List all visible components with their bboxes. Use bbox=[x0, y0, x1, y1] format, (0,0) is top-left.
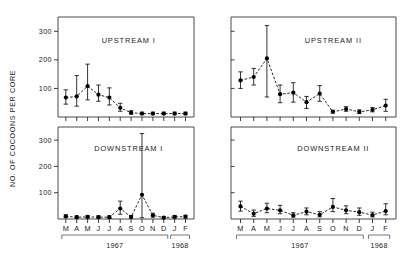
data-point bbox=[151, 111, 155, 115]
data-point bbox=[384, 209, 388, 213]
y-axis-title-wrap: NO. OF COCOONS PER CORE bbox=[2, 0, 24, 256]
year-label: 1967 bbox=[291, 241, 308, 250]
figure-root: NO. OF COCOONS PER CORE 100200300UPSTREA… bbox=[0, 0, 403, 256]
data-point bbox=[344, 208, 348, 212]
x-month-label: O bbox=[139, 224, 145, 233]
year-label: 1968 bbox=[371, 241, 388, 250]
data-point bbox=[64, 95, 68, 99]
data-point bbox=[107, 95, 111, 99]
y-axis-title: NO. OF COCOONS PER CORE bbox=[9, 69, 18, 186]
data-point bbox=[331, 110, 335, 114]
x-month-label: N bbox=[150, 224, 156, 233]
data-point bbox=[75, 94, 79, 98]
data-point bbox=[183, 111, 187, 115]
x-month-label: F bbox=[183, 224, 188, 233]
y-tick-label: 200 bbox=[39, 55, 52, 64]
data-point bbox=[291, 91, 295, 95]
x-month-label: M bbox=[84, 224, 90, 233]
panel-upstream-i: 100200300UPSTREAM I bbox=[39, 17, 194, 121]
x-month-label: J bbox=[291, 224, 295, 233]
series-line bbox=[66, 195, 186, 218]
panel-frame bbox=[231, 127, 396, 219]
data-point bbox=[162, 216, 166, 220]
data-point bbox=[278, 208, 282, 212]
series-line bbox=[241, 206, 386, 215]
panel-frame bbox=[231, 17, 396, 117]
data-point bbox=[162, 111, 166, 115]
series-line bbox=[241, 58, 386, 111]
panel-title: UPSTREAM I bbox=[102, 36, 156, 45]
data-point bbox=[118, 106, 122, 110]
data-point bbox=[252, 212, 256, 216]
data-point bbox=[370, 108, 374, 112]
panel-group: 100200300UPSTREAM IUPSTREAM II100200300D… bbox=[39, 17, 396, 233]
data-point bbox=[129, 215, 133, 219]
x-month-label: F bbox=[383, 224, 388, 233]
data-point bbox=[107, 215, 111, 219]
year-label: 1968 bbox=[171, 241, 188, 250]
panel-downstream-ii: DOWNSTREAM IIMAMJJASONDJF bbox=[231, 127, 396, 233]
cocoon-abundance-chart: 100200300UPSTREAM IUPSTREAM II100200300D… bbox=[0, 0, 403, 256]
y-tick-label: 100 bbox=[39, 188, 52, 197]
data-point bbox=[183, 215, 187, 219]
data-point bbox=[318, 213, 322, 217]
y-tick-label: 200 bbox=[39, 162, 52, 171]
data-point bbox=[304, 100, 308, 104]
x-month-label: O bbox=[330, 224, 336, 233]
data-point bbox=[318, 91, 322, 95]
x-month-label: J bbox=[278, 224, 282, 233]
data-point bbox=[64, 214, 68, 218]
x-month-label: A bbox=[251, 224, 256, 233]
data-point bbox=[118, 206, 122, 210]
data-point bbox=[357, 110, 361, 114]
x-month-label: A bbox=[304, 224, 309, 233]
x-month-label: J bbox=[371, 224, 375, 233]
x-month-label: J bbox=[173, 224, 177, 233]
year-bracket bbox=[62, 235, 168, 239]
y-tick-label: 100 bbox=[39, 84, 52, 93]
x-month-label: S bbox=[317, 224, 322, 233]
x-month-label: S bbox=[129, 224, 134, 233]
x-month-label: N bbox=[343, 224, 349, 233]
data-point bbox=[140, 111, 144, 115]
x-month-label: J bbox=[107, 224, 111, 233]
data-point bbox=[96, 215, 100, 219]
year-bracket bbox=[171, 235, 190, 239]
data-point bbox=[140, 193, 144, 197]
x-month-label: A bbox=[118, 224, 123, 233]
year-bracket bbox=[369, 235, 390, 239]
data-point bbox=[252, 75, 256, 79]
data-point bbox=[151, 213, 155, 217]
data-point bbox=[96, 93, 100, 97]
series-line bbox=[66, 86, 186, 113]
x-month-label: M bbox=[264, 224, 270, 233]
year-bracket-group: 1967196819671968 bbox=[62, 235, 390, 250]
y-tick-label: 300 bbox=[39, 27, 52, 36]
year-label: 1967 bbox=[106, 241, 123, 250]
data-point bbox=[291, 213, 295, 217]
data-point bbox=[173, 215, 177, 219]
data-point bbox=[278, 92, 282, 96]
x-month-label: D bbox=[357, 224, 363, 233]
data-point bbox=[85, 215, 89, 219]
data-point bbox=[129, 111, 133, 115]
data-point bbox=[384, 103, 388, 107]
x-month-label: A bbox=[74, 224, 79, 233]
panel-frame bbox=[58, 127, 194, 219]
data-point bbox=[75, 215, 79, 219]
panel-title: UPSTREAM II bbox=[305, 36, 362, 45]
x-month-label: M bbox=[63, 224, 69, 233]
data-point bbox=[357, 210, 361, 214]
y-tick-label: 300 bbox=[39, 136, 52, 145]
data-point bbox=[85, 84, 89, 88]
data-point bbox=[304, 210, 308, 214]
data-point bbox=[331, 205, 335, 209]
data-point bbox=[265, 56, 269, 60]
x-month-label: D bbox=[161, 224, 167, 233]
panel-title: DOWNSTREAM II bbox=[297, 144, 369, 153]
x-month-label: M bbox=[237, 224, 243, 233]
data-point bbox=[238, 204, 242, 208]
panel-downstream-i: 100200300DOWNSTREAM IMAMJJASONDJF bbox=[39, 127, 194, 233]
data-point bbox=[344, 107, 348, 111]
panel-frame bbox=[58, 17, 194, 117]
